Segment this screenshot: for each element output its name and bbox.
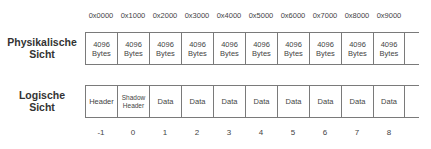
address-label: 0x0000 [85,10,117,22]
logical-cell-data: Data [341,86,373,117]
index-label: 6 [309,127,341,139]
cell-label: Data [254,97,270,106]
index-label: -1 [85,127,117,139]
cell-label: Data [286,97,302,106]
physical-view-label-line1: Physikalische [2,36,82,48]
cell-unit: Bytes [124,49,143,58]
index-label: 0 [117,127,149,139]
logical-view-label-line1: Logische [2,89,82,101]
physical-cell: 4096Bytes [309,33,341,64]
index-label: 5 [277,127,309,139]
cell-size: 4096 [316,40,335,49]
address-label: 0x5000 [245,10,277,22]
physical-view-label-line2: Sicht [2,48,82,60]
cell-label: Data [318,97,334,106]
cell-unit: Bytes [92,49,111,58]
physical-cell: 4096Bytes [85,33,117,64]
index-label: 1 [149,127,181,139]
cell-label: Header [89,97,114,106]
cell-size: 4096 [188,40,207,49]
logical-cell-data: Data [181,86,213,117]
logical-view-label-line2: Sicht [2,101,82,113]
address-label: 0x3000 [181,10,213,22]
logical-cell-header: Header [85,86,117,117]
address-label: 0x2000 [149,10,181,22]
cell-unit: Bytes [252,49,271,58]
physical-cell: 4096Bytes [341,33,373,64]
physical-cell: 4096Bytes [277,33,309,64]
cell-unit: Bytes [284,49,303,58]
physical-view-strip: 4096Bytes 4096Bytes 4096Bytes 4096Bytes … [85,32,419,65]
address-label: 0x4000 [213,10,245,22]
physical-cell: 4096Bytes [213,33,245,64]
logical-cell-data: Data [277,86,309,117]
physical-cell: 4096Bytes [149,33,181,64]
cell-label: Data [158,97,174,106]
address-label: 0x6000 [277,10,309,22]
index-label: 4 [245,127,277,139]
address-label: 0x1000 [117,10,149,22]
cell-size: 4096 [92,40,111,49]
address-label: 0x8000 [341,10,373,22]
logical-view-strip: Header ShadowHeader Data Data Data Data … [85,85,419,118]
logical-cell-data: Data [309,86,341,117]
cell-size: 4096 [156,40,175,49]
cell-size: 4096 [252,40,271,49]
index-label: 8 [373,127,405,139]
logical-cell-data: Data [213,86,245,117]
cell-label: Data [190,97,206,106]
cell-unit: Bytes [348,49,367,58]
cell-label: Data [222,97,238,106]
cell-size: 4096 [220,40,239,49]
physical-cell: 4096Bytes [245,33,277,64]
cell-size: 4096 [284,40,303,49]
physical-view-label: Physikalische Sicht [2,36,82,60]
physical-cell: 4096Bytes [117,33,149,64]
cell-unit: Bytes [156,49,175,58]
cell-label: Shadow [122,94,146,102]
logical-view-label: Logische Sicht [2,89,82,113]
cell-unit: Bytes [188,49,207,58]
cell-size: 4096 [380,40,399,49]
physical-cell: 4096Bytes [373,33,405,64]
index-label: 7 [341,127,373,139]
address-label: 0x9000 [373,10,405,22]
index-label: 2 [181,127,213,139]
cell-label: Header [122,102,146,110]
logical-cell-data: Data [245,86,277,117]
index-label: 3 [213,127,245,139]
cell-unit: Bytes [316,49,335,58]
cell-size: 4096 [124,40,143,49]
cell-label: Data [350,97,366,106]
logical-cell-data: Data [149,86,181,117]
cell-unit: Bytes [380,49,399,58]
cell-label: Data [381,97,397,106]
logical-cell-data: Data [373,86,405,117]
physical-cell: 4096Bytes [181,33,213,64]
cell-unit: Bytes [220,49,239,58]
address-label: 0x7000 [309,10,341,22]
cell-size: 4096 [348,40,367,49]
logical-cell-shadow-header: ShadowHeader [117,86,149,117]
